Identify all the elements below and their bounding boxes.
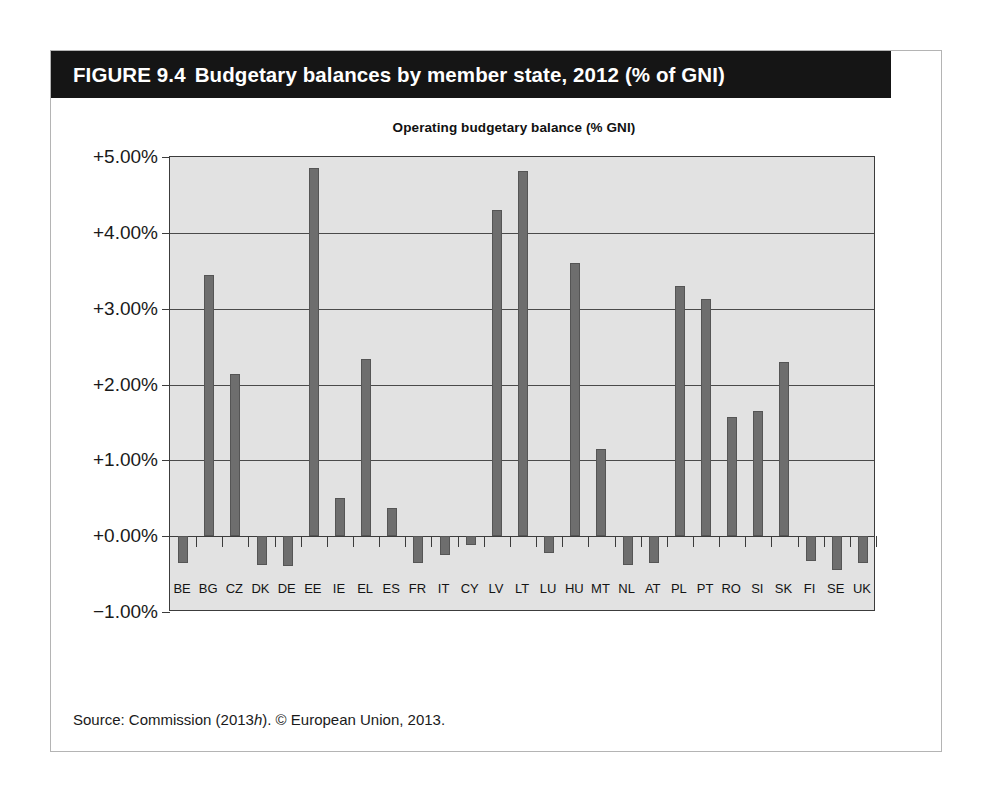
bar: [230, 374, 240, 536]
x-axis-tick: [301, 536, 302, 547]
x-axis-tick: [222, 536, 223, 547]
figure-title-banner: FIGURE 9.4Budgetary balances by member s…: [51, 51, 891, 98]
bar: [832, 536, 842, 569]
x-axis-category-label: SK: [775, 581, 792, 596]
bar: [753, 411, 763, 536]
x-axis-category-label: CZ: [226, 581, 243, 596]
bar: [806, 536, 816, 561]
source-suffix: ). © European Union, 2013.: [262, 711, 445, 728]
x-axis-category-label: IT: [438, 581, 450, 596]
y-axis-tick-label: +4.00%: [93, 222, 158, 244]
x-axis-category-label: UK: [853, 581, 871, 596]
bar: [283, 536, 293, 566]
x-axis-category-label: FR: [409, 581, 426, 596]
bar: [727, 417, 737, 536]
x-axis-tick: [275, 536, 276, 547]
x-axis-tick: [510, 536, 511, 547]
x-axis-tick: [876, 536, 877, 547]
bar: [596, 449, 606, 536]
chart: Operating budgetary balance (% GNI) +5.0…: [51, 98, 941, 698]
plot-area: +5.00%+4.00%+3.00%+2.00%+1.00%+0.00%−1.0…: [169, 156, 875, 611]
x-axis-category-label: LU: [540, 581, 557, 596]
y-axis-tick: [162, 460, 170, 461]
chart-subtitle: Operating budgetary balance (% GNI): [161, 120, 867, 135]
figure-title-text: FIGURE 9.4Budgetary balances by member s…: [51, 63, 725, 87]
x-axis-tick: [615, 536, 616, 547]
x-axis-tick: [771, 536, 772, 547]
x-axis-tick: [353, 536, 354, 547]
bar: [387, 508, 397, 536]
bar: [779, 362, 789, 536]
x-axis-tick: [798, 536, 799, 547]
bar: [858, 536, 868, 563]
y-axis-tick: [162, 233, 170, 234]
bar: [675, 286, 685, 536]
bar: [492, 210, 502, 536]
x-axis-category-label: SI: [751, 581, 763, 596]
source-italic-marker: h: [254, 711, 262, 728]
figure-container: FIGURE 9.4Budgetary balances by member s…: [50, 50, 942, 752]
bar: [518, 171, 528, 537]
bar: [257, 536, 267, 565]
x-axis-category-label: RO: [721, 581, 741, 596]
y-axis-tick: [162, 309, 170, 310]
bar: [178, 536, 188, 563]
x-axis-category-label: AT: [645, 581, 661, 596]
x-axis-tick: [588, 536, 589, 547]
x-axis-tick: [458, 536, 459, 547]
x-axis-category-label: EL: [357, 581, 373, 596]
x-axis-tick: [379, 536, 380, 547]
x-axis-category-label: DE: [278, 581, 296, 596]
x-axis-tick: [405, 536, 406, 547]
bar: [361, 359, 371, 536]
source-caption: Source: Commission (2013h). © European U…: [73, 711, 445, 728]
y-axis-tick-label: +0.00%: [93, 525, 158, 547]
y-axis-tick: [162, 157, 170, 158]
bar: [309, 168, 319, 537]
x-axis-tick: [536, 536, 537, 547]
x-axis-category-label: CY: [461, 581, 479, 596]
y-axis-tick: [162, 536, 170, 537]
x-axis-tick: [196, 536, 197, 547]
x-axis-category-label: BE: [173, 581, 190, 596]
x-axis-tick: [745, 536, 746, 547]
bar: [623, 536, 633, 565]
y-axis-tick: [162, 612, 170, 613]
bar: [204, 275, 214, 536]
x-axis-category-label: ES: [383, 581, 400, 596]
bar: [440, 536, 450, 555]
x-axis-tick: [327, 536, 328, 547]
x-axis-category-label: LV: [488, 581, 503, 596]
x-axis-tick: [693, 536, 694, 547]
figure-title: Budgetary balances by member state, 2012…: [195, 63, 725, 86]
x-axis-category-label: IE: [333, 581, 345, 596]
x-axis-category-label: MT: [591, 581, 610, 596]
x-axis-tick: [431, 536, 432, 547]
bar: [649, 536, 659, 563]
x-axis-category-label: PT: [697, 581, 714, 596]
x-axis-category-label: PL: [671, 581, 687, 596]
bar: [570, 263, 580, 536]
y-axis-tick-label: +3.00%: [93, 298, 158, 320]
bar: [466, 536, 476, 545]
y-axis-tick: [162, 385, 170, 386]
x-axis-tick: [484, 536, 485, 547]
x-axis-category-label: NL: [618, 581, 635, 596]
x-axis-category-label: SE: [827, 581, 844, 596]
bar: [544, 536, 554, 553]
x-axis-category-label: DK: [251, 581, 269, 596]
x-axis-tick: [641, 536, 642, 547]
x-axis-tick: [562, 536, 563, 547]
y-axis-tick-label: +2.00%: [93, 374, 158, 396]
x-axis-tick: [667, 536, 668, 547]
x-axis-category-label: BG: [199, 581, 218, 596]
y-axis-tick-label: +1.00%: [93, 449, 158, 471]
source-prefix: Source: Commission (2013: [73, 711, 254, 728]
x-axis-tick: [719, 536, 720, 547]
x-axis-tick: [824, 536, 825, 547]
bar: [413, 536, 423, 563]
x-axis-tick: [248, 536, 249, 547]
x-axis-category-label: FI: [804, 581, 816, 596]
bar: [701, 299, 711, 536]
x-axis-category-label: HU: [565, 581, 584, 596]
